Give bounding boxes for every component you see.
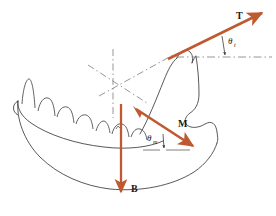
tooth-molar-2	[96, 121, 110, 133]
force-vectors-group	[121, 13, 262, 192]
labels-group: T M B θ t θ m	[131, 10, 243, 194]
angle-subscript-theta-t: t	[234, 42, 236, 48]
diagonal-construction-line-to-t	[99, 55, 173, 96]
angle-label-theta-m: θ	[147, 133, 152, 143]
mandible-force-diagram: T M B θ t θ m	[0, 0, 276, 216]
diagram-canvas: T M B θ t θ m	[0, 0, 276, 216]
mandible-condyle-and-posterior-ramus	[185, 56, 218, 143]
tooth-canine	[22, 79, 35, 108]
mandible-lower-border	[18, 101, 217, 190]
tooth-molar-4	[131, 129, 147, 140]
vector-label-b: B	[131, 183, 138, 194]
diagonal-construction-line-left	[88, 65, 147, 103]
angle-subscript-theta-m: m	[153, 139, 158, 145]
teeth-group	[22, 79, 147, 140]
tooth-premolar-2	[57, 107, 74, 123]
tooth-premolar-1	[38, 98, 55, 116]
theta-t-tick	[222, 36, 225, 55]
vector-label-t: T	[236, 10, 243, 21]
tooth-bite-force-vector[interactable]	[168, 13, 262, 59]
vector-label-m: M	[178, 118, 188, 129]
angle-label-theta-t: θ	[228, 36, 233, 46]
construction-lines-group	[88, 49, 272, 150]
theta-m-tick	[163, 134, 164, 148]
muscle-force-tail-head	[133, 106, 142, 118]
mandible-alveolar-border	[18, 101, 163, 148]
tooth-molar-1	[76, 115, 93, 129]
